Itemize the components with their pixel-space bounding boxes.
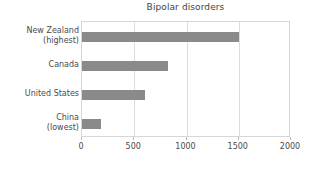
- y-axis-category-label: New Zealand(highest): [1, 26, 79, 46]
- x-axis-tick: [238, 137, 239, 140]
- category-label-line: Canada: [49, 60, 79, 69]
- plot-area: [81, 21, 290, 137]
- bar: [82, 90, 145, 100]
- bar-fill: [82, 90, 145, 100]
- x-axis-tick-label: 500: [126, 142, 141, 151]
- bar-fill: [82, 61, 168, 71]
- bar: [82, 32, 239, 42]
- x-axis-tick: [186, 137, 187, 140]
- bar-fill: [82, 32, 239, 42]
- chart-title: Bipolar disorders: [81, 2, 290, 12]
- gridline: [239, 22, 240, 136]
- y-axis-category-label: China(lowest): [1, 113, 79, 133]
- x-axis-tick: [81, 137, 82, 140]
- bar: [82, 61, 168, 71]
- bar: [82, 119, 101, 129]
- y-axis-category-label: United States: [1, 89, 79, 99]
- x-axis-tick-label: 1500: [228, 142, 248, 151]
- x-axis-tick-label: 0: [78, 142, 83, 151]
- category-label-line: China: [56, 113, 79, 122]
- bar-fill: [82, 119, 101, 129]
- x-axis-tick: [133, 137, 134, 140]
- category-label-line: New Zealand: [26, 26, 79, 35]
- category-label-line: United States: [25, 89, 79, 98]
- category-label-line: (lowest): [1, 123, 79, 133]
- category-label-line: (highest): [1, 36, 79, 46]
- y-axis-category-label: Canada: [1, 60, 79, 70]
- bar-chart: Bipolar disorders 0500100015002000 New Z…: [0, 0, 313, 170]
- x-axis-tick: [290, 137, 291, 140]
- x-axis-tick-label: 2000: [280, 142, 300, 151]
- x-axis-tick-label: 1000: [175, 142, 195, 151]
